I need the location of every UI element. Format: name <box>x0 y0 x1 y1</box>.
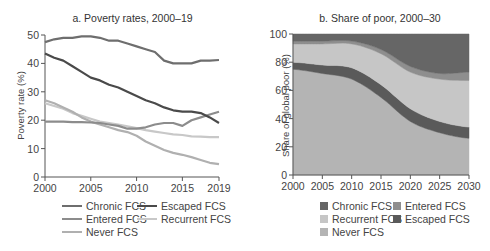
legend-label: Recurrent FCS <box>332 213 402 225</box>
legend-item-recurrent-fcs: Recurrent FCS <box>320 213 402 225</box>
panel-b-areas <box>293 34 469 175</box>
panel-a-axes: 0102030405020002005201020152019 <box>27 29 231 194</box>
x-tick-label: 2010 <box>340 180 364 192</box>
x-tick-label: 2020 <box>399 180 423 192</box>
legend-swatch-icon <box>320 202 328 210</box>
legend-label: Never FCS <box>332 226 384 238</box>
panel-a-lines <box>45 36 219 164</box>
legend-item-escaped-fcs: Escaped FCS <box>393 213 470 225</box>
x-tick-label: 2030 <box>457 180 481 192</box>
legend-label: Chronic FCS <box>332 200 392 212</box>
legend-item-entered-fcs: Entered FCS <box>62 213 147 225</box>
y-tick-label: 40 <box>275 113 287 125</box>
legend-label: Escaped FCS <box>161 200 226 212</box>
y-tick-label: 10 <box>27 143 39 155</box>
y-tick-label: 40 <box>27 57 39 69</box>
y-tick-label: 20 <box>27 114 39 126</box>
y-tick-label: 80 <box>275 56 287 68</box>
legend-line-icon <box>62 205 82 207</box>
legend-label: Recurrent FCS <box>161 213 231 225</box>
x-tick-label: 2019 <box>207 182 231 194</box>
x-tick-label: 2010 <box>125 182 149 194</box>
y-tick-label: 60 <box>275 84 287 96</box>
legend-label: Entered FCS <box>405 200 466 212</box>
x-tick-label: 2025 <box>428 180 452 192</box>
legend-label: Never FCS <box>86 226 138 238</box>
legend-line-icon <box>137 205 157 207</box>
series-line-entered-fcs <box>45 112 219 129</box>
series-line-chronic-fcs <box>45 36 219 63</box>
legend-item-chronic-fcs: Chronic FCS <box>320 200 392 212</box>
x-tick-label: 2005 <box>79 182 103 194</box>
x-tick-label: 2000 <box>281 180 305 192</box>
y-tick-label: 50 <box>27 29 39 41</box>
x-tick-label: 2015 <box>171 182 195 194</box>
legend-swatch-icon <box>320 228 328 236</box>
x-tick-label: 2005 <box>311 180 335 192</box>
legend-swatch-icon <box>320 215 328 223</box>
legend-item-never-fcs: Never FCS <box>62 226 138 238</box>
legend-item-never-fcs: Never FCS <box>320 226 384 238</box>
legend-line-icon <box>62 218 82 220</box>
legend-swatch-icon <box>393 215 401 223</box>
legend-label: Escaped FCS <box>405 213 470 225</box>
legend-line-icon <box>62 231 82 233</box>
legend-item-entered-fcs: Entered FCS <box>393 200 466 212</box>
y-tick-label: 20 <box>275 141 287 153</box>
y-tick-label: 100 <box>269 28 287 40</box>
legend-item-chronic-fcs: Chronic FCS <box>62 200 146 212</box>
legend-swatch-icon <box>393 202 401 210</box>
legend-line-icon <box>137 218 157 220</box>
y-tick-label: 30 <box>27 86 39 98</box>
x-tick-label: 2015 <box>369 180 393 192</box>
legend-item-escaped-fcs: Escaped FCS <box>137 200 226 212</box>
series-line-never-fcs <box>45 100 219 164</box>
x-tick-label: 2000 <box>33 182 57 194</box>
legend-item-recurrent-fcs: Recurrent FCS <box>137 213 231 225</box>
